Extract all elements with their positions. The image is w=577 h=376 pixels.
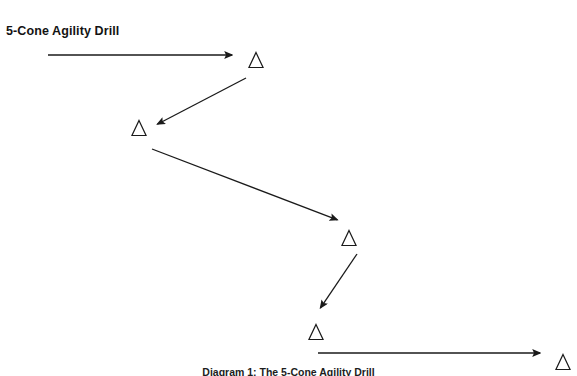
arrow-4 — [320, 254, 357, 308]
arrow-3 — [152, 149, 337, 220]
diagram-page: 5-Cone Agility Drill Diagram 1: The 5-Co… — [0, 0, 577, 376]
arrows-group — [48, 55, 540, 353]
agility-drill-diagram — [0, 0, 577, 376]
cone-icon-3 — [342, 231, 356, 246]
arrow-2 — [157, 78, 246, 124]
cones-group — [132, 53, 570, 370]
cone-icon-4 — [309, 325, 323, 340]
diagram-caption: Diagram 1: The 5-Cone Agility Drill — [0, 366, 577, 376]
cone-icon-1 — [249, 53, 263, 68]
cone-icon-2 — [132, 121, 146, 136]
